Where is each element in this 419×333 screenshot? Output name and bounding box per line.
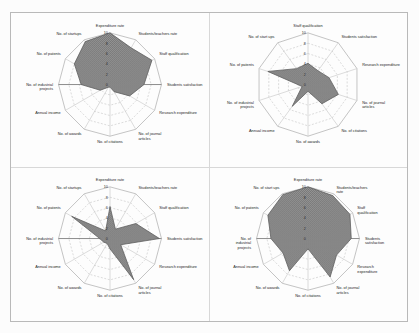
svg-text:Expenditure rate: Expenditure rate (96, 178, 124, 182)
svg-text:Students/teachers rate: Students/teachers rate (138, 186, 177, 190)
svg-text:10: 10 (104, 31, 108, 35)
svg-text:Students satisfaction: Students satisfaction (167, 83, 203, 87)
svg-text:No. ofindustrialprojects: No. ofindustrialprojects (236, 237, 252, 250)
svg-text:4: 4 (304, 62, 306, 66)
svg-text:No. of citations: No. of citations (295, 294, 321, 298)
svg-text:Staff qualification: Staff qualification (159, 206, 188, 210)
svg-text:No. of patents: No. of patents (37, 52, 61, 56)
figure-panel: 1086420 Expenditure rateStudents/teacher… (10, 12, 408, 322)
svg-text:Annual income: Annual income (233, 265, 258, 269)
svg-text:Research expenditure: Research expenditure (362, 63, 400, 67)
svg-text:Annual income: Annual income (35, 111, 60, 115)
svg-text:Research expenditure: Research expenditure (159, 111, 197, 115)
svg-text:No. of awards: No. of awards (296, 140, 320, 144)
svg-text:0: 0 (106, 83, 108, 87)
svg-text:Annual income: Annual income (35, 265, 60, 269)
svg-text:No. of patents: No. of patents (37, 206, 61, 210)
radar-area (74, 33, 152, 96)
radar-chart-top-right: 1086420 Staff qualificationStudents sati… (209, 13, 407, 167)
svg-text:10: 10 (302, 31, 306, 35)
radar-svg-bottom-right: 1086420 Expenditure rateStudents/teacher… (209, 167, 407, 321)
svg-text:Studentssatisfaction: Studentssatisfaction (365, 237, 384, 245)
svg-text:0: 0 (304, 83, 306, 87)
svg-text:6: 6 (106, 206, 108, 210)
svg-text:No. of citations: No. of citations (97, 294, 123, 298)
svg-text:6: 6 (304, 52, 306, 56)
svg-text:6: 6 (106, 52, 108, 56)
svg-text:8: 8 (106, 42, 108, 46)
svg-text:No. of journalarticles: No. of journalarticles (138, 286, 161, 294)
svg-text:No. of journalarticles: No. of journalarticles (362, 101, 385, 109)
svg-text:8: 8 (304, 196, 306, 200)
radar-svg-top-right: 1086420 Staff qualificationStudents sati… (209, 13, 407, 167)
svg-text:No. of industrialprojects: No. of industrialprojects (26, 237, 53, 245)
svg-text:6: 6 (304, 206, 306, 210)
svg-text:No. of start ups: No. of start ups (253, 186, 279, 190)
radar-svg-bottom-left: 1086420 Expenditure rateStudents/teacher… (11, 167, 209, 321)
svg-text:4: 4 (304, 216, 306, 220)
svg-text:No. of industrialprojects: No. of industrialprojects (227, 101, 254, 109)
svg-text:Students satisfaction: Students satisfaction (167, 237, 203, 241)
svg-text:Researchexpenditure: Researchexpenditure (357, 265, 377, 273)
svg-text:No. of startups: No. of startups (56, 32, 81, 36)
svg-text:No. of startups: No. of startups (56, 186, 81, 190)
svg-text:No. of awards: No. of awards (58, 132, 82, 136)
svg-text:No. of patents: No. of patents (235, 206, 259, 210)
svg-text:8: 8 (106, 196, 108, 200)
svg-text:No. of journalarticles: No. of journalarticles (336, 286, 359, 294)
svg-text:Staff qualification: Staff qualification (293, 24, 322, 28)
radar-area (268, 187, 351, 277)
radar-chart-top-left: 1086420 Expenditure rateStudents/teacher… (11, 13, 209, 167)
radar-chart-bottom-right: 1086420 Expenditure rateStudents/teacher… (209, 167, 407, 321)
svg-text:Annual income: Annual income (249, 129, 274, 133)
svg-text:Students/teachersrate: Students/teachersrate (336, 186, 367, 194)
svg-text:No. of awards: No. of awards (256, 286, 280, 290)
svg-text:Staff qualification: Staff qualification (159, 52, 188, 56)
svg-text:2: 2 (106, 73, 108, 77)
svg-text:2: 2 (304, 73, 306, 77)
svg-text:No. of citations: No. of citations (341, 129, 367, 133)
radar-svg-top-left: 1086420 Expenditure rateStudents/teacher… (11, 13, 209, 167)
svg-text:Students/teachers rate: Students/teachers rate (138, 32, 177, 36)
svg-text:8: 8 (304, 42, 306, 46)
svg-text:0: 0 (304, 237, 306, 241)
svg-text:Students satisfaction: Students satisfaction (341, 35, 377, 39)
svg-text:Expenditure rate: Expenditure rate (96, 24, 124, 28)
svg-text:4: 4 (106, 216, 108, 220)
svg-text:Staffqualification: Staffqualification (357, 206, 377, 214)
svg-text:No. of start ups: No. of start ups (248, 35, 274, 39)
svg-text:10: 10 (104, 185, 108, 189)
svg-text:Expenditure rate: Expenditure rate (294, 178, 322, 182)
svg-text:No. of patents: No. of patents (230, 63, 254, 67)
radar-chart-bottom-left: 1086420 Expenditure rateStudents/teacher… (11, 167, 209, 321)
svg-text:No. of citations: No. of citations (97, 140, 123, 144)
svg-text:0: 0 (106, 237, 108, 241)
svg-text:Research expenditure: Research expenditure (159, 265, 197, 269)
svg-text:4: 4 (106, 62, 108, 66)
svg-text:2: 2 (304, 227, 306, 231)
svg-text:No. of awards: No. of awards (58, 286, 82, 290)
svg-text:No. of industrialprojects: No. of industrialprojects (26, 83, 53, 91)
svg-text:No. of journalarticles: No. of journalarticles (138, 132, 161, 140)
svg-text:2: 2 (106, 227, 108, 231)
svg-text:10: 10 (302, 185, 306, 189)
